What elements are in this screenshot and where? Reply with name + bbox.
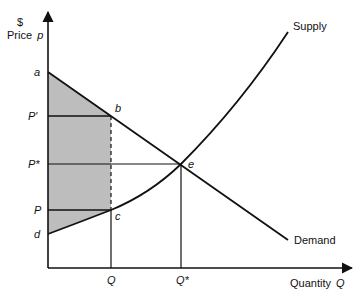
point-b: b <box>115 102 121 114</box>
point-e: e <box>188 158 194 170</box>
label-p-star: P* <box>28 158 40 170</box>
demand-label: Demand <box>294 234 336 246</box>
label-p: P <box>34 204 42 216</box>
label-q: Q <box>107 274 116 286</box>
label-a: a <box>34 66 40 78</box>
point-c: c <box>115 210 121 222</box>
supply-demand-diagram: $ Price p a P′ P* P d b e c Q Q* Supply … <box>0 0 359 295</box>
label-q-star: Q* <box>176 274 190 286</box>
label-d: d <box>34 228 41 240</box>
y-axis-unit: $ <box>17 16 23 28</box>
supply-label: Supply <box>293 20 327 32</box>
y-axis-label: Price p <box>7 29 43 41</box>
x-axis-label: Quantity Q <box>290 277 345 289</box>
label-p-prime: P′ <box>28 110 38 122</box>
